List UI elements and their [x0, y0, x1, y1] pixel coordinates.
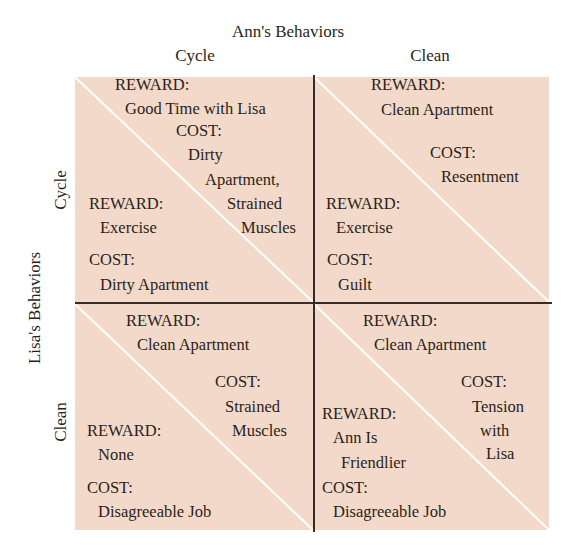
lisa-reward-label: REWARD: [89, 194, 163, 214]
ann-cost-line: Muscles [232, 421, 287, 441]
row-axis-title: Lisa's Behaviors [25, 248, 45, 368]
lisa-cost-value: Dirty Apartment [100, 275, 209, 295]
ann-cost-label: COST: [461, 372, 507, 392]
ann-reward-value: Clean Apartment [137, 335, 249, 355]
ann-cost-line: Lisa [486, 444, 514, 464]
ann-cost-label: COST: [215, 372, 261, 392]
ann-cost-line: with [480, 421, 509, 441]
lisa-reward-value: None [98, 445, 134, 465]
horizontal-divider [75, 302, 552, 304]
row-label-cycle: Cycle [51, 165, 71, 215]
lisa-reward-value: Friendlier [341, 453, 406, 473]
lisa-cost-label: COST: [327, 250, 373, 270]
lisa-cost-value: Guilt [338, 275, 372, 295]
lisa-reward-value: Ann Is [333, 428, 377, 448]
ann-cost-line: Apartment, [205, 170, 280, 190]
ann-cost-label: COST: [430, 143, 476, 163]
ann-reward-value: Clean Apartment [374, 335, 486, 355]
lisa-reward-label: REWARD: [87, 421, 161, 441]
lisa-cost-label: COST: [89, 250, 135, 270]
lisa-cost-value: Disagreeable Job [98, 502, 211, 522]
column-axis-title: Ann's Behaviors [0, 22, 576, 42]
column-label-clean: Clean [385, 46, 475, 66]
column-label-cycle: Cycle [150, 46, 240, 66]
lisa-cost-value: Disagreeable Job [333, 502, 446, 522]
ann-reward-label: REWARD: [363, 311, 437, 331]
ann-cost-value: Resentment [441, 167, 519, 187]
ann-cost-line: Muscles [241, 218, 296, 238]
row-label-clean: Clean [51, 397, 71, 447]
ann-reward-label: REWARD: [371, 75, 445, 95]
lisa-cost-label: COST: [322, 478, 368, 498]
ann-reward-label: REWARD: [126, 311, 200, 331]
ann-cost-line: Tension [472, 397, 524, 417]
ann-cost-label: COST: [176, 121, 222, 141]
lisa-cost-label: COST: [87, 478, 133, 498]
lisa-reward-label: REWARD: [322, 404, 396, 424]
ann-reward-label: REWARD: [115, 75, 189, 95]
lisa-reward-label: REWARD: [326, 194, 400, 214]
ann-reward-value: Good Time with Lisa [125, 99, 266, 119]
ann-cost-line: Dirty [188, 145, 223, 165]
lisa-reward-value: Exercise [336, 218, 393, 238]
lisa-reward-value: Exercise [100, 218, 157, 238]
ann-reward-value: Clean Apartment [381, 100, 493, 120]
ann-cost-line: Strained [227, 194, 282, 214]
ann-cost-line: Strained [225, 397, 280, 417]
